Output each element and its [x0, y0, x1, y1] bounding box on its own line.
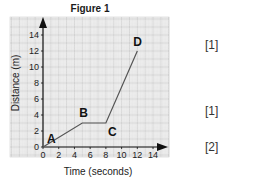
point-label-d: D	[133, 35, 142, 49]
svg-text:10: 10	[29, 62, 39, 72]
svg-text:2: 2	[34, 126, 39, 136]
svg-text:4: 4	[34, 110, 39, 120]
point-label-a: A	[47, 132, 56, 146]
svg-text:2: 2	[56, 150, 61, 160]
svg-text:10: 10	[117, 150, 127, 160]
svg-text:8: 8	[34, 78, 39, 88]
distance-time-chart: 0246810121402468101214 ABCD Time (second…	[0, 0, 180, 192]
svg-text:12: 12	[132, 150, 142, 160]
svg-text:14: 14	[29, 30, 39, 40]
mark-2: [1]	[205, 104, 218, 118]
svg-text:4: 4	[72, 150, 77, 160]
point-label-c: C	[108, 125, 117, 139]
svg-text:6: 6	[34, 94, 39, 104]
svg-text:0: 0	[40, 150, 45, 160]
svg-text:12: 12	[29, 46, 39, 56]
point-label-b: B	[79, 106, 88, 120]
mark-1: [1]	[205, 38, 218, 52]
svg-text:0: 0	[34, 142, 39, 152]
svg-text:14: 14	[148, 150, 158, 160]
y-axis-label: Distance (m)	[10, 55, 21, 112]
mark-3: [2]	[205, 140, 218, 154]
x-axis-label: Time (seconds)	[64, 166, 133, 177]
svg-text:8: 8	[103, 150, 108, 160]
svg-text:6: 6	[88, 150, 93, 160]
